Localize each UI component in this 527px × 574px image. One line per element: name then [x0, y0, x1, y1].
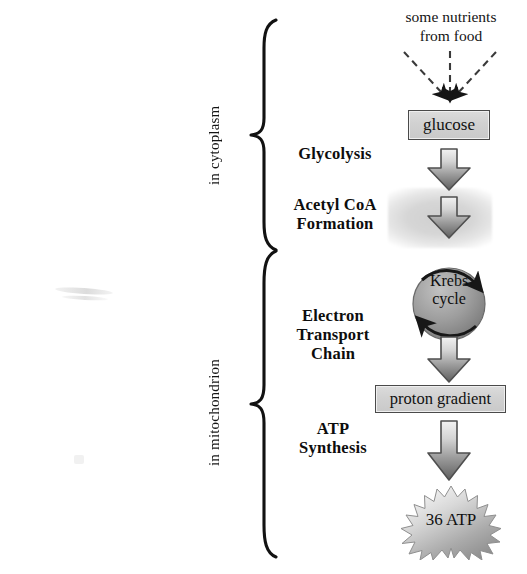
molecule-box-glucose[interactable]: glucose	[408, 110, 490, 140]
krebs-label-line: cycle	[404, 290, 494, 308]
flow-arrow-atp-synthesis	[424, 420, 474, 482]
input-caption-line: some nutrients	[376, 8, 526, 27]
atp-yield-label: 36 ATP	[396, 510, 506, 530]
input-caption-line: from food	[376, 27, 526, 46]
stage-label-line: Chain	[258, 345, 408, 364]
stage-label-electron-transport-chain: Electron Transport Chain	[258, 307, 408, 363]
molecule-box-proton-gradient[interactable]: proton gradient	[375, 385, 506, 413]
stage-label-atp-synthesis: ATP Synthesis	[258, 420, 408, 458]
stage-label-line: Synthesis	[258, 439, 408, 458]
diagram-canvas: in cytoplasm in mitochondrion Glycolysis…	[0, 0, 527, 574]
stage-label-line: Electron	[258, 307, 408, 326]
compartment-label-cytoplasm: in cytoplasm	[206, 60, 223, 230]
dashed-input-arrows	[398, 48, 502, 110]
input-caption-nutrients: some nutrients from food	[376, 8, 526, 46]
stage-label-line: Transport	[258, 326, 408, 345]
scan-artifact-smudge	[55, 286, 113, 296]
flow-arrow-glycolysis	[424, 148, 474, 192]
krebs-cycle-label: Krebs cycle	[404, 272, 494, 308]
scan-artifact-speck	[74, 455, 84, 464]
flow-arrow-electron-transport	[424, 336, 474, 384]
compartment-label-mitochondrion: in mitochondrion	[206, 310, 223, 515]
stage-label-glycolysis: Glycolysis	[260, 145, 410, 164]
flow-arrow-acetyl-coa	[424, 196, 474, 240]
brace-mitochondrion	[248, 249, 280, 559]
scan-artifact-smudge	[62, 295, 108, 301]
krebs-label-line: Krebs	[404, 272, 494, 290]
stage-label-line: ATP	[258, 420, 408, 439]
